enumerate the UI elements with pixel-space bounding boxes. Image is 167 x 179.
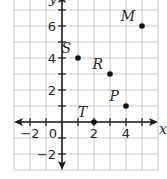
y-tick-label: 2 xyxy=(48,83,56,98)
x-tick-label: 4 xyxy=(122,126,130,141)
x-axis-label: x xyxy=(159,121,167,137)
point-label: M xyxy=(120,8,136,24)
point-marker xyxy=(123,103,129,109)
point-marker xyxy=(139,23,145,29)
coordinate-plane: −224−22460xy SRPTM xyxy=(0,0,167,179)
y-tick-label: 4 xyxy=(48,51,56,66)
point-label: S xyxy=(61,40,71,56)
y-tick-label: 6 xyxy=(48,19,56,34)
point-marker xyxy=(107,71,113,77)
x-tick-label: 2 xyxy=(90,126,98,141)
grid xyxy=(14,0,158,170)
x-tick-label: −2 xyxy=(20,126,39,141)
origin-label: 0 xyxy=(49,126,57,141)
y-tick-label: −2 xyxy=(37,147,56,162)
point-marker xyxy=(75,55,81,61)
point-marker xyxy=(91,119,97,125)
point-label: R xyxy=(91,56,103,72)
point-label: P xyxy=(109,88,120,104)
y-axis-label: y xyxy=(48,0,58,6)
